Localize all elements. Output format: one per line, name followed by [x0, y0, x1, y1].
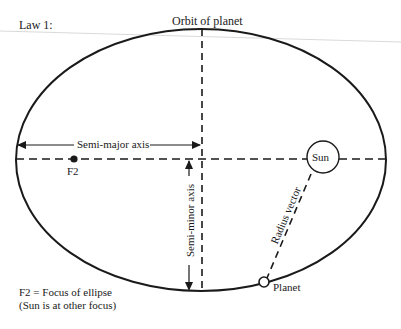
legend-line-2: (Sun is at other focus) — [19, 300, 116, 311]
planet-circle — [259, 277, 269, 287]
semi-minor-label: Semi-minor axis — [185, 171, 196, 271]
focus-f2-label: F2 — [67, 166, 79, 177]
semi-major-label: Semi-major axis — [77, 139, 149, 150]
diagram-title: Law 1: — [19, 19, 53, 31]
planet-label: Planet — [273, 282, 301, 293]
legend-line-1: F2 = Focus of ellipse — [19, 287, 112, 298]
top-rule — [0, 31, 401, 42]
orbit-label: Orbit of planet — [172, 15, 243, 27]
arrowhead-up-icon — [185, 160, 193, 169]
kepler-law1-diagram — [0, 0, 401, 329]
sun-label: Sun — [312, 152, 329, 163]
arrowhead-right-icon — [192, 141, 201, 149]
focus-f2-dot — [70, 155, 77, 162]
